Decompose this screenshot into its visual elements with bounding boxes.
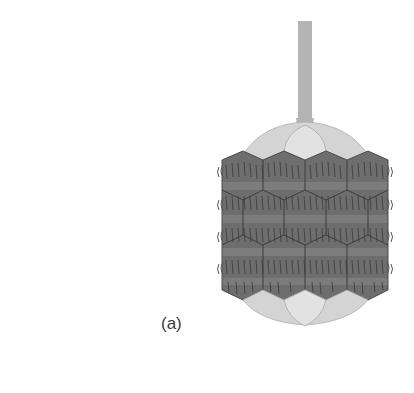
panel-label: (a) xyxy=(161,314,182,334)
capsid-diagram xyxy=(0,0,414,393)
bottom-cap xyxy=(243,290,368,326)
hexagon-body xyxy=(218,151,393,300)
top-cap xyxy=(243,122,368,162)
tail xyxy=(292,21,318,126)
